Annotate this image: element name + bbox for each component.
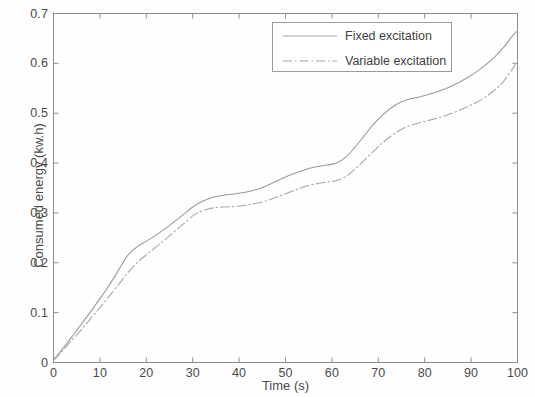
legend-entry-variable-excitation: Variable excitation [273, 48, 451, 73]
legend-entry-fixed-excitation: Fixed excitation [273, 23, 451, 48]
chart-figure: 00.10.20.30.40.50.60.7 01020304050607080… [0, 0, 535, 397]
chart-legend: Fixed excitation Variable excitation [272, 22, 452, 72]
y-tick-label: 0.1 [8, 306, 48, 320]
legend-label-fixed-excitation: Fixed excitation [345, 29, 432, 43]
legend-line-sample-dash-dot [281, 55, 339, 67]
plot-canvas [0, 0, 535, 397]
legend-label-variable-excitation: Variable excitation [345, 54, 446, 68]
legend-line-sample-solid [281, 30, 339, 42]
data-series-layer [54, 31, 518, 361]
x-axis-title: Time (s) [53, 378, 518, 393]
y-tick-label: 0.6 [8, 56, 48, 70]
y-tick-label: 0 [8, 356, 48, 370]
series-line-variable-excitation [54, 61, 518, 361]
series-line-fixed-excitation [54, 31, 518, 360]
y-tick-label: 0.7 [8, 7, 48, 21]
y-axis-title: Consumed energy (kw.h) [31, 96, 46, 296]
